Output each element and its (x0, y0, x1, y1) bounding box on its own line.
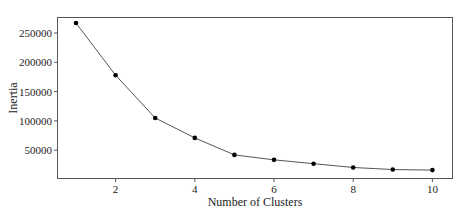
data-point (74, 21, 79, 26)
x-axis-label: Number of Clusters (208, 195, 303, 209)
plot-area (58, 18, 453, 179)
y-tick-label: 100000 (19, 115, 53, 127)
data-point (430, 168, 435, 173)
y-axis-ticks: 50000100000150000200000250000 (19, 27, 58, 156)
y-tick-label: 200000 (19, 56, 53, 68)
y-tick-label: 250000 (19, 27, 53, 39)
x-axis-ticks: 246810 (113, 179, 439, 196)
x-tick-label: 2 (113, 183, 119, 195)
y-tick-label: 150000 (19, 86, 53, 98)
data-point (311, 161, 316, 166)
data-point (153, 116, 158, 121)
x-tick-label: 8 (350, 183, 356, 195)
y-tick-label: 50000 (25, 144, 53, 156)
y-axis-label: Inertia (6, 82, 20, 114)
x-tick-label: 10 (427, 183, 439, 195)
elbow-chart: 50000100000150000200000250000 246810 Num… (0, 0, 463, 212)
x-tick-label: 4 (192, 183, 198, 195)
data-point (113, 73, 118, 78)
data-point (272, 158, 277, 163)
data-point (391, 167, 396, 172)
data-point (232, 153, 237, 158)
x-tick-label: 6 (271, 183, 277, 195)
data-point (193, 136, 198, 141)
data-point (351, 165, 356, 170)
